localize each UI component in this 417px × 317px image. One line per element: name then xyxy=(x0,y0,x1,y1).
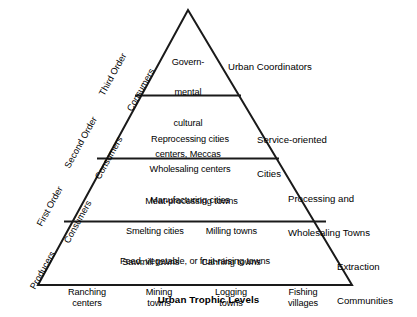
tier-right-label-line: Urban Coordinators xyxy=(228,61,312,72)
tier-right-label-line: Extraction xyxy=(337,261,393,272)
tier-right-label-extraction-communities: Extraction Communities xyxy=(337,238,393,317)
tier-right-label-line: Service-oriented xyxy=(257,134,327,145)
tier-content-line: Govern- xyxy=(133,57,243,67)
tier-right-label-urban-coordinators: Urban Coordinators xyxy=(228,38,312,95)
tier-content-line: Feed, vegetable, or fruit-raising towns xyxy=(38,256,352,266)
urban-trophic-pyramid-diagram: Third Order Consumers Govern- mental cul… xyxy=(0,0,417,317)
tier-right-label-line: Processing and xyxy=(288,193,370,204)
tier-content-line: mental xyxy=(133,87,243,97)
tier-content-line: Meat-processing towns xyxy=(63,196,320,206)
figure-caption: Urban Trophic Levels xyxy=(0,294,417,305)
